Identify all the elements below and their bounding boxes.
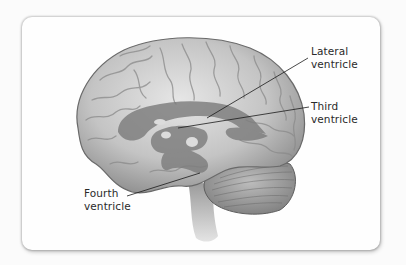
label-third-ventricle: Third ventricle (311, 100, 358, 126)
brain-illustration (0, 0, 406, 265)
label-lateral-ventricle: Lateral ventricle (311, 45, 358, 71)
label-fourth-ventricle: Fourth ventricle (84, 187, 131, 213)
